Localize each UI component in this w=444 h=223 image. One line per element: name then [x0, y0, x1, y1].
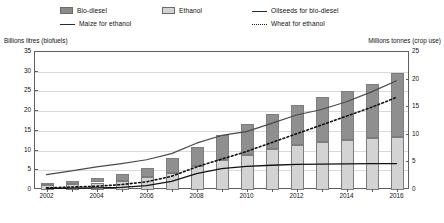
line-series-overlay [34, 51, 409, 189]
legend-item-wheat-for-ethanol: Wheat for ethanol [252, 20, 325, 27]
y-axis-left-tick-mark [34, 150, 38, 151]
chart-figure: Bio-diesel Ethanol Oilseeds for bio-dies… [0, 0, 444, 223]
line-series-maize-for-ethanol [47, 164, 397, 189]
x-axis-tick-mark [122, 189, 123, 192]
x-axis-tick-label: 2004 [89, 192, 103, 199]
y-axis-left-title: Billions litres (biofuels) [4, 37, 68, 44]
x-axis-tick-label: 2006 [139, 192, 153, 199]
y-axis-left-tick-label: 25 [11, 86, 31, 93]
y-axis-right-tick-label: 5 [412, 157, 434, 164]
legend-item-maize-for-ethanol: Maize for ethanol [60, 20, 131, 27]
line-series-oilseeds-for-bio-diesel [47, 81, 397, 175]
x-axis-tick-label: 2016 [389, 192, 403, 199]
legend-item-bio-diesel: Bio-diesel [60, 7, 107, 14]
y-axis-right-tick-label: 0 [412, 185, 434, 192]
y-axis-left-tick-label: 10 [11, 146, 31, 153]
y-axis-right-tick-label: 10 [412, 130, 434, 137]
x-axis-tick-mark [72, 189, 73, 192]
x-axis-tick-mark [172, 189, 173, 192]
y-axis-right-title: Millions tonnes (crop use) [368, 37, 441, 44]
legend-item-oilseeds-for-bio-diesel: Oilseeds for bio-diesel [252, 7, 339, 14]
x-axis-tick-label: 2008 [189, 192, 203, 199]
legend-label-bio-diesel: Bio-diesel [77, 7, 107, 14]
y-axis-right-tick-mark [406, 161, 410, 162]
y-axis-left-tick-mark [34, 90, 38, 91]
x-axis-tick-mark [372, 189, 373, 192]
legend-item-ethanol: Ethanol [162, 7, 202, 14]
y-axis-left-tick-mark [34, 130, 38, 131]
x-axis-tick-mark [322, 189, 323, 192]
x-axis-tick-label: 2010 [239, 192, 253, 199]
legend-label-ethanol: Ethanol [179, 7, 202, 14]
y-axis-left-tick-label: 30 [11, 67, 31, 74]
y-axis-left-tick-label: 35 [11, 47, 31, 54]
y-axis-right-tick-label: 15 [412, 102, 434, 109]
y-axis-left-tick-label: 5 [11, 165, 31, 172]
legend-swatch-bio-diesel [60, 7, 73, 14]
x-axis-tick-label: 2002 [39, 192, 53, 199]
y-axis-right-tick-mark [406, 134, 410, 135]
x-axis-tick-mark [272, 189, 273, 192]
x-axis-tick-label: 2014 [339, 192, 353, 199]
legend-label-oilseeds-for-bio-diesel: Oilseeds for bio-diesel [271, 7, 339, 14]
y-axis-left-tick-label: 0 [11, 185, 31, 192]
y-axis-left-tick-mark [34, 110, 38, 111]
y-axis-right-tick-mark [406, 79, 410, 80]
x-axis-tick-label: 2012 [289, 192, 303, 199]
legend-line-maize-icon [60, 20, 75, 27]
x-axis-tick-mark [222, 189, 223, 192]
legend-line-wheat-icon [252, 20, 267, 27]
y-axis-right-tick-mark [406, 106, 410, 107]
chart-legend: Bio-diesel Ethanol Oilseeds for bio-dies… [0, 5, 444, 33]
legend-swatch-ethanol [162, 7, 175, 14]
legend-label-wheat-for-ethanol: Wheat for ethanol [271, 20, 325, 27]
legend-label-maize-for-ethanol: Maize for ethanol [79, 20, 131, 27]
y-axis-left-tick-label: 15 [11, 126, 31, 133]
y-axis-right-tick-label: 20 [412, 75, 434, 82]
y-axis-left-tick-mark [34, 71, 38, 72]
y-axis-right-tick-label: 25 [412, 47, 434, 54]
legend-line-oilseeds-icon [252, 7, 267, 14]
y-axis-left-tick-label: 20 [11, 106, 31, 113]
line-series-wheat-for-ethanol [47, 97, 397, 188]
y-axis-left-tick-mark [34, 169, 38, 170]
